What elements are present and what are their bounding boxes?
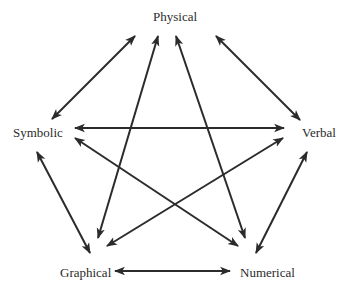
edge-symbolic-graphical — [37, 152, 90, 253]
edge-verbal-graphical — [107, 138, 283, 246]
edge-physical-symbolic — [52, 36, 135, 119]
edge-physical-numerical — [176, 36, 245, 238]
representation-pentagram-diagram: Physical Symbolic Verbal Graphical Numer… — [0, 0, 349, 292]
edges-layer — [0, 0, 349, 292]
node-numerical-label: Numerical — [240, 265, 295, 280]
node-verbal-label: Verbal — [302, 125, 336, 140]
edge-physical-graphical — [98, 36, 158, 238]
node-symbolic-label: Symbolic — [13, 125, 63, 140]
node-physical-label: Physical — [153, 9, 197, 24]
edge-verbal-numerical — [256, 152, 307, 253]
edge-physical-verbal — [216, 36, 300, 120]
node-graphical-label: Graphical — [60, 265, 111, 280]
